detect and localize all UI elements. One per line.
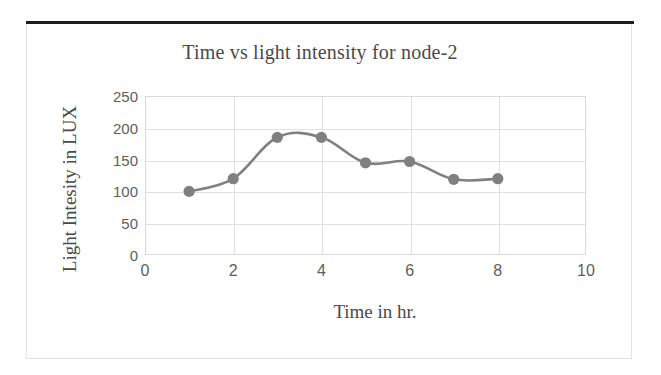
x-tick-label: 0 xyxy=(125,262,165,280)
y-tick-label: 250 xyxy=(86,88,138,105)
y-tick-label: 100 xyxy=(86,183,138,200)
chart-title: Time vs light intensity for node-2 xyxy=(100,41,540,64)
x-axis-title: Time in hr. xyxy=(185,301,565,323)
x-tick-label: 6 xyxy=(390,262,430,280)
x-tick-label: 4 xyxy=(301,262,341,280)
y-tick-label: 200 xyxy=(86,119,138,136)
x-tick-label: 2 xyxy=(213,262,253,280)
gridline-horizontal xyxy=(146,129,585,130)
x-tick-label: 10 xyxy=(566,262,606,280)
gridline-vertical xyxy=(234,97,235,254)
x-tick-label: 8 xyxy=(478,262,518,280)
plot-area xyxy=(145,96,586,255)
gridline-vertical xyxy=(411,97,412,254)
gridline-vertical xyxy=(499,97,500,254)
gridline-horizontal xyxy=(146,224,585,225)
y-tick-label: 150 xyxy=(86,151,138,168)
x-axis-tick-labels: 0246810 xyxy=(145,262,586,286)
screenshot-root: Time vs light intensity for node-2 Light… xyxy=(0,0,661,375)
gridline-vertical xyxy=(322,97,323,254)
line-chart: Time vs light intensity for node-2 Light… xyxy=(0,0,661,375)
gridline-horizontal xyxy=(146,161,585,162)
y-tick-label: 50 xyxy=(86,215,138,232)
y-axis-title: Light Intesity in LUX xyxy=(59,79,81,299)
y-tick-label: 0 xyxy=(86,247,138,264)
gridline-horizontal xyxy=(146,192,585,193)
y-axis-tick-labels: 050100150200250 xyxy=(86,96,138,255)
